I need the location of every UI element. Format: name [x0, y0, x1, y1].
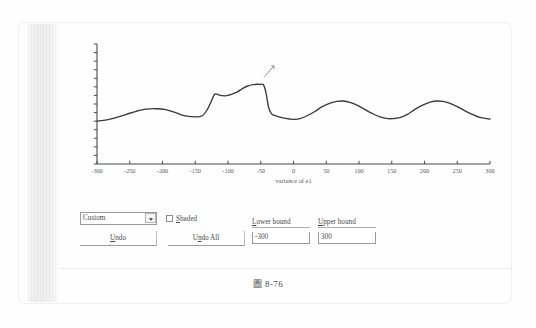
chevron-down-icon[interactable] — [145, 213, 156, 223]
x-axis-title: variance of e1 — [275, 177, 311, 184]
figure-caption: 圖 8-76 — [0, 277, 536, 290]
mode-select[interactable]: Custom — [80, 212, 157, 225]
x-tick-label: -100 — [222, 167, 233, 174]
line-chart: -300-250-200-150-100-5005010015020025030… — [60, 36, 500, 186]
shaded-rest: haded — [180, 215, 197, 223]
x-tick-label: 100 — [354, 167, 363, 174]
x-tick-label: 200 — [420, 167, 429, 174]
x-tick-label: 300 — [485, 167, 494, 174]
x-axis-tick-labels: -300-250-200-150-100-5005010015020025030… — [91, 167, 494, 174]
undo-button[interactable]: Undo — [80, 231, 157, 246]
x-tick-label: -300 — [91, 167, 102, 174]
upper-bound-value: 300 — [321, 233, 332, 241]
x-tick-label: 150 — [387, 167, 396, 174]
lower-bound-label-rest: ower bound — [256, 218, 290, 226]
lower-bound-input[interactable]: -300 — [252, 232, 310, 244]
control-panel: Custom Shaded Undo Undo All Lower bound … — [80, 210, 380, 266]
x-tick-label: 250 — [453, 167, 462, 174]
page-gutter-shadow — [28, 24, 58, 302]
lower-bound-value: -300 — [255, 233, 268, 241]
upper-bound-input[interactable]: 300 — [318, 232, 376, 244]
undo-all-button-label: Undo All — [193, 234, 220, 242]
upper-bound-label: Upper bound — [318, 218, 376, 228]
x-tick-label: -150 — [190, 167, 201, 174]
upper-bound-label-rest: pper bound — [323, 218, 356, 226]
shaded-checkbox[interactable]: Shaded — [166, 212, 197, 225]
checkbox-box[interactable] — [166, 215, 173, 222]
scanned-page: -300-250-200-150-100-5005010015020025030… — [0, 0, 536, 328]
x-tick-label: 50 — [323, 167, 329, 174]
mouse-cursor-icon — [264, 66, 274, 77]
undo-all-rest: do All — [202, 234, 220, 242]
upper-bound-group: Upper bound 300 — [318, 218, 376, 244]
data-series-line — [97, 84, 490, 121]
mode-select-value: Custom — [83, 214, 105, 223]
undo-rest: ndo — [115, 234, 126, 242]
x-tick-label: -200 — [157, 167, 168, 174]
lower-bound-label: Lower bound — [252, 218, 310, 228]
undo-button-label: Undo — [110, 234, 126, 242]
x-tick-label: -250 — [124, 167, 135, 174]
x-tick-label: -50 — [257, 167, 265, 174]
shaded-checkbox-label: Shaded — [176, 215, 197, 223]
undo-all-button[interactable]: Undo All — [168, 231, 245, 246]
x-tick-label: 0 — [292, 167, 295, 174]
lower-bound-group: Lower bound -300 — [252, 218, 310, 244]
figure-divider-rule — [60, 268, 512, 269]
chart-canvas: -300-250-200-150-100-5005010015020025030… — [60, 36, 500, 186]
